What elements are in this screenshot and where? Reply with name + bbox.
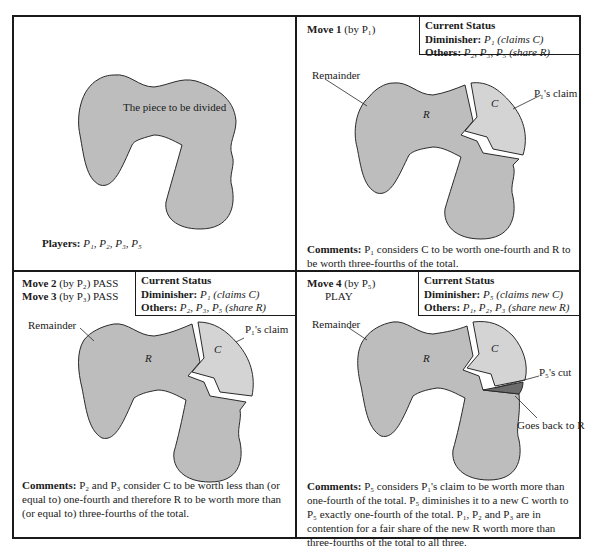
remainder-leader-line: [325, 79, 367, 106]
comment: Comments: P₂ and P₃ consider C to be wor…: [22, 478, 292, 520]
comment-label: Comments:: [22, 479, 76, 491]
remainder-label: Remainder: [312, 69, 361, 81]
claim-label: P₁'s claim: [245, 323, 289, 335]
region-c-label: C: [214, 343, 222, 355]
claim-label: P₁'s claim: [534, 87, 578, 99]
whole-piece-label: The piece to be divided: [123, 101, 227, 113]
move-1-diagram: Remainder P₁'s claim R C: [297, 17, 579, 270]
comment-label: Comments:: [307, 480, 361, 492]
back-label: Goes back to R: [517, 419, 585, 431]
region-r-label: R: [422, 352, 430, 364]
panel-move-2-3: Move 2 (by P₂) PASS Move 3 (by P₃) PASS …: [14, 272, 295, 537]
region-r-label: R: [422, 108, 430, 120]
region-c-label: C: [491, 342, 499, 354]
comment: Comments: P₅ considers P₁'s claim to be …: [307, 479, 575, 549]
comment-label: Comments:: [307, 243, 361, 255]
panel-move-4: Move 4 (by P₅) PLAY Current Status Dimin…: [297, 272, 579, 537]
comment: Comments: P₁ considers C to be worth one…: [307, 242, 575, 270]
remainder-label: Remainder: [312, 318, 361, 330]
panel-initial: The piece to be divided Players: P₁, P₂,…: [14, 17, 295, 270]
whole-piece-diagram: The piece to be divided: [14, 17, 295, 270]
panel-move-1: Move 1 (by P₁) Current Status Diminisher…: [297, 17, 579, 270]
region-c-label: C: [491, 97, 499, 109]
whole-piece-shape: [79, 75, 236, 229]
cut-label: P₅'s cut: [539, 366, 571, 378]
players-line: Players: P₁, P₂, P₃, P₅: [42, 237, 142, 251]
claim-leader-line: [236, 338, 244, 342]
players-label: Players:: [42, 237, 80, 249]
region-r-label: R: [144, 352, 152, 364]
remainder-label: Remainder: [28, 319, 77, 331]
players-list: P₁, P₂, P₃, P₅: [83, 237, 142, 249]
